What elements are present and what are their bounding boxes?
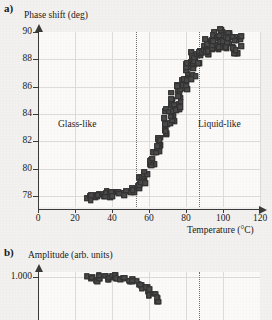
x-tick-label: 120 xyxy=(240,214,272,224)
y-axis-title-b: Amplitude (arb. units) xyxy=(28,250,113,260)
annotation-glass-like: Glass-like xyxy=(58,119,97,129)
gridline-vertical xyxy=(260,32,261,207)
annotation-liquid-like: Liquid-like xyxy=(198,119,241,129)
y-tick-label: 84 xyxy=(0,109,32,119)
y-tick-mark xyxy=(33,87,38,88)
data-point xyxy=(95,192,101,198)
y-tick-mark xyxy=(33,277,38,278)
gridline-vertical xyxy=(186,272,187,320)
y-tick-label-wrap: 86 xyxy=(0,82,32,92)
data-point xyxy=(141,169,147,175)
data-point xyxy=(154,143,160,149)
data-point xyxy=(239,34,245,40)
y-tick-label: 1.000 xyxy=(0,272,32,282)
x-tick-label-wrap: 60 xyxy=(129,214,169,224)
figure-container: a) b) Phase shift (deg) Temperature (°C)… xyxy=(0,0,272,320)
y-tick-label: 86 xyxy=(0,82,32,92)
data-point xyxy=(143,180,149,186)
data-point xyxy=(217,26,223,32)
y-tick-label-wrap: 78 xyxy=(0,191,32,201)
data-point xyxy=(209,43,215,49)
x-axis-line-a xyxy=(38,209,262,210)
data-point xyxy=(193,73,199,79)
x-tick-label-wrap: 120 xyxy=(240,214,272,224)
data-point xyxy=(154,150,160,156)
plot-area-amplitude xyxy=(38,272,260,320)
y-tick-label: 88 xyxy=(0,54,32,64)
data-point xyxy=(210,32,216,38)
x-axis-title-a: Temperature (°C) xyxy=(187,225,254,235)
x-tick-label-wrap: 100 xyxy=(203,214,243,224)
y-tick-label-wrap: 90 xyxy=(0,27,32,37)
data-point xyxy=(216,44,222,50)
data-point xyxy=(175,84,181,90)
y-axis-title-a: Phase shift (deg) xyxy=(24,10,88,20)
data-point xyxy=(161,115,167,121)
y-tick-label: 80 xyxy=(0,164,32,174)
panel-label-b: b) xyxy=(4,246,14,258)
y-tick-mark xyxy=(33,114,38,115)
data-point xyxy=(230,34,236,40)
data-point xyxy=(178,104,184,110)
x-tick-label: 60 xyxy=(129,214,169,224)
data-point xyxy=(130,188,136,194)
y-tick-mark xyxy=(33,32,38,33)
y-tick-label: 78 xyxy=(0,191,32,201)
y-tick-label-wrap: 82 xyxy=(0,136,32,146)
y-tick-label-wrap: 80 xyxy=(0,164,32,174)
y-tick-label: 90 xyxy=(0,27,32,37)
gridline-vertical xyxy=(223,272,224,320)
data-point xyxy=(183,83,189,89)
x-tick-label: 100 xyxy=(203,214,243,224)
data-point xyxy=(97,273,102,278)
gridline-vertical xyxy=(75,272,76,320)
y-axis-line-b xyxy=(38,270,39,320)
x-tick-label: 0 xyxy=(18,214,58,224)
data-point xyxy=(238,43,244,49)
y-tick-mark xyxy=(33,141,38,142)
data-point xyxy=(150,156,156,162)
gridline-vertical xyxy=(149,32,150,207)
y-axis-line-a xyxy=(38,30,39,210)
y-axis-arrow-a xyxy=(35,24,43,32)
y-tick-mark xyxy=(33,196,38,197)
data-point xyxy=(163,128,169,134)
data-point xyxy=(168,90,174,96)
y-tick-mark xyxy=(33,59,38,60)
data-point xyxy=(157,137,163,143)
y-tick-label-wrap: 84 xyxy=(0,109,32,119)
y-tick-mark xyxy=(33,169,38,170)
x-tick-label-wrap: 20 xyxy=(55,214,95,224)
x-tick-label: 80 xyxy=(166,214,206,224)
x-tick-label-wrap: 40 xyxy=(92,214,132,224)
data-point xyxy=(168,114,174,120)
y-tick-label: 82 xyxy=(0,136,32,146)
x-tick-label: 20 xyxy=(55,214,95,224)
gridline-vertical xyxy=(112,32,113,207)
x-tick-label: 40 xyxy=(92,214,132,224)
y-axis-arrow-b xyxy=(35,264,43,272)
gridline-vertical xyxy=(186,32,187,207)
gridline-horizontal xyxy=(38,277,260,278)
transition-marker-line xyxy=(199,272,200,320)
x-tick-label-wrap: 80 xyxy=(166,214,206,224)
x-tick-label-wrap: 0 xyxy=(18,214,58,224)
panel-label-a: a) xyxy=(4,2,13,14)
data-point xyxy=(195,61,201,67)
data-point xyxy=(176,93,182,99)
y-tick-label-wrap: 1.000 xyxy=(0,272,32,282)
y-tick-label-wrap: 88 xyxy=(0,54,32,64)
data-point xyxy=(156,299,161,304)
